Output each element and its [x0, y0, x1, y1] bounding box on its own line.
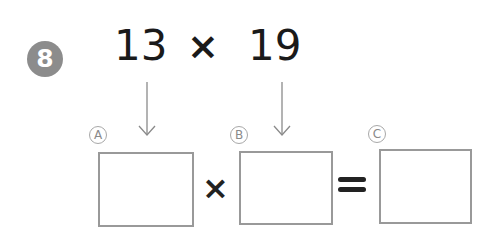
problem-number-badge: 8: [27, 41, 63, 77]
label-b: B: [230, 126, 248, 144]
equals-bar-top: [338, 177, 366, 182]
times-operator: ×: [202, 172, 229, 204]
answer-box-a[interactable]: [98, 152, 194, 227]
multiplicand: 13: [114, 22, 167, 70]
answer-box-c[interactable]: [379, 149, 472, 224]
multiplier: 19: [248, 22, 301, 70]
equals-bar-bottom: [338, 187, 366, 192]
label-c: C: [368, 125, 386, 143]
answer-box-b[interactable]: [239, 151, 333, 225]
arrow-down-icon: [273, 80, 291, 138]
equals-operator: [338, 177, 366, 193]
label-a: A: [89, 126, 107, 144]
times-operator-top: ×: [187, 22, 219, 70]
arrow-down-icon: [138, 80, 156, 138]
